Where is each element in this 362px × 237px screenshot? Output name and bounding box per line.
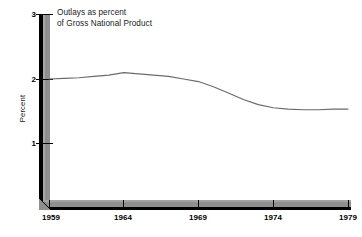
data-line-outlays-pct-gnp <box>49 73 348 110</box>
plot-area <box>0 0 362 237</box>
chart-figure: Outlays as percent of Gross National Pro… <box>0 0 362 237</box>
